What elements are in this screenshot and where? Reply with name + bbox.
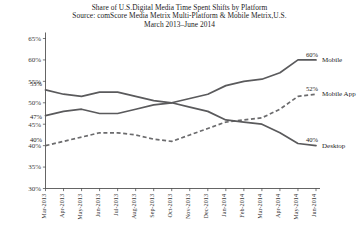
end-label-mobile-app: 52% — [306, 85, 319, 92]
x-tick-label: Jun-2014 — [310, 194, 317, 217]
start-label-desktop: 53% — [30, 80, 43, 87]
x-tick-label: Apr-2013 — [58, 194, 65, 218]
y-tick-label: 35% — [28, 163, 41, 171]
x-tick-label: Mar-2013 — [40, 194, 47, 219]
x-axis: Mar-2013Apr-2013May-2013Jun-2013Jul-2013… — [40, 189, 321, 220]
start-label-mobile: 47% — [30, 113, 43, 120]
legend-label-desktop: Desktop — [322, 142, 346, 150]
x-tick-label: Jan-2014 — [220, 194, 227, 217]
x-tick-label: May-2013 — [76, 194, 83, 220]
chart-container: Share of U.S.Digital Media Time Spent Sh… — [0, 0, 359, 243]
data-point-labels: 47%60%40%52%53%40% — [30, 51, 319, 144]
x-tick-label: May-2014 — [292, 194, 299, 220]
y-tick-label: 30% — [28, 185, 41, 193]
series-line-desktop — [46, 90, 317, 146]
x-tick-label: Apr-2014 — [274, 194, 281, 218]
legend: MobileMobile AppDesktop — [322, 56, 356, 150]
end-label-desktop: 40% — [306, 136, 319, 143]
legend-label-mobile-app: Mobile App — [322, 90, 356, 98]
x-tick-label: Sep-2013 — [148, 194, 155, 218]
x-tick-label: Aug-2013 — [130, 194, 137, 219]
x-tick-label: Dec-2013 — [202, 194, 209, 218]
x-tick-label: Nov-2013 — [184, 194, 191, 219]
y-tick-label: 65% — [28, 35, 41, 43]
x-tick-label: Oct-2013 — [166, 194, 173, 217]
x-tick-label: Mar-2014 — [256, 194, 263, 219]
y-tick-label: 60% — [28, 56, 41, 64]
series-lines — [46, 60, 317, 146]
start-label-mobile-app: 40% — [30, 136, 43, 143]
x-tick-label: Jun-2013 — [94, 194, 101, 217]
x-tick-label: Jul-2013 — [112, 194, 119, 216]
series-line-mobile — [46, 60, 317, 116]
x-tick-label: Feb-2014 — [238, 194, 245, 218]
y-tick-label: 45% — [28, 121, 41, 129]
chart-plot-area: 65%60%55%50%45%40%35%30% Mar-2013Apr-201… — [0, 0, 359, 243]
y-tick-label: 50% — [28, 99, 41, 107]
legend-label-mobile: Mobile — [322, 56, 342, 64]
series-line-mobile-app — [46, 94, 317, 145]
end-label-mobile: 60% — [306, 51, 319, 58]
